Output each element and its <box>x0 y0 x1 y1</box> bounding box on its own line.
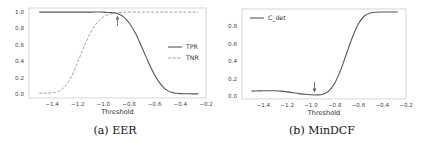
eer-y-tick-label: 0.0 <box>15 91 24 97</box>
mindcf-x-tick-label: −0.8 <box>328 102 342 108</box>
mindcf-y-tick-label: 0.0 <box>228 93 237 99</box>
eer-x-tick-label: −0.8 <box>122 101 136 107</box>
mindcf-lines <box>252 12 398 95</box>
mindcf-x-tick-label: −0.4 <box>375 102 389 108</box>
eer-x-tick-label: −1.2 <box>71 101 85 107</box>
eer-x-tick-label: −0.6 <box>148 101 162 107</box>
eer-x-tick-label: −1.0 <box>97 101 111 107</box>
mindcf-y-ticks: 0.00.20.40.60.8 <box>228 23 237 99</box>
eer-y-tick-label: 1.0 <box>15 9 24 15</box>
mindcf-plot-frame <box>242 9 406 99</box>
mindcf-x-tick-label: −1.0 <box>304 102 318 108</box>
eer-lines <box>39 12 198 94</box>
eer-x-axis-label: Threshold <box>100 108 134 116</box>
eer-y-tick-label: 0.2 <box>15 75 24 81</box>
mindcf-legend: C_det <box>250 14 286 22</box>
mindcf-series-c-det <box>252 12 398 95</box>
mindcf-x-ticks: −1.4−1.2−1.0−0.8−0.6−0.4−0.2 <box>257 102 413 108</box>
mindcf-annotation <box>313 82 317 93</box>
eer-x-ticks: −1.4−1.2−1.0−0.8−0.6−0.4−0.2 <box>45 101 213 107</box>
mindcf-arrow-down-icon <box>313 89 317 93</box>
eer-y-tick-label: 0.8 <box>15 25 24 31</box>
mindcf-x-tick-label: −1.4 <box>257 102 271 108</box>
eer-series-tnr <box>39 12 198 93</box>
mindcf-panel: 0.00.20.40.60.8 −1.4−1.2−1.0−0.8−0.6−0.4… <box>228 9 413 137</box>
mindcf-x-tick-label: −1.2 <box>280 102 294 108</box>
eer-series-tpr <box>39 12 198 94</box>
mindcf-y-tick-label: 0.4 <box>228 58 237 64</box>
mindcf-y-tick-label: 0.6 <box>228 41 237 47</box>
eer-x-tick-label: −1.4 <box>45 101 59 107</box>
eer-panel: 0.00.20.40.60.81.0 −1.4−1.2−1.0−0.8−0.6−… <box>15 8 213 137</box>
figure: 0.00.20.40.60.81.0 −1.4−1.2−1.0−0.8−0.6−… <box>0 0 422 143</box>
mindcf-legend-label: C_det <box>268 14 286 22</box>
mindcf-x-axis-label: Threshold <box>307 109 341 117</box>
eer-legend: TPRTNR <box>168 43 199 61</box>
eer-legend-label: TNR <box>185 54 199 61</box>
mindcf-caption: (b) MinDCF <box>289 124 355 137</box>
eer-annotation <box>116 16 120 27</box>
eer-x-tick-label: −0.2 <box>199 101 213 107</box>
eer-legend-label: TPR <box>185 43 199 50</box>
eer-y-tick-label: 0.6 <box>15 42 24 48</box>
mindcf-y-tick-label: 0.2 <box>228 76 237 82</box>
mindcf-x-tick-label: −0.6 <box>352 102 366 108</box>
mindcf-x-tick-label: −0.2 <box>399 102 413 108</box>
eer-caption: (a) EER <box>94 124 138 137</box>
mindcf-y-tick-label: 0.8 <box>228 23 237 29</box>
eer-y-tick-label: 0.4 <box>15 58 24 64</box>
eer-x-tick-label: −0.4 <box>174 101 188 107</box>
eer-arrow-up-icon <box>116 16 120 20</box>
eer-y-ticks: 0.00.20.40.60.81.0 <box>15 9 24 97</box>
